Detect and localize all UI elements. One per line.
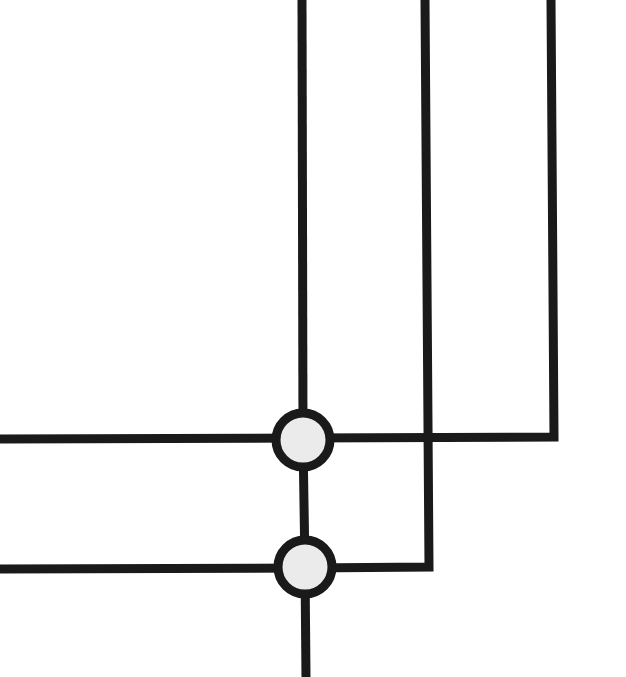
wire-left-1 xyxy=(0,438,303,439)
junction-node-1 xyxy=(276,413,330,467)
wire-top-2 xyxy=(305,0,429,568)
wire-left-2 xyxy=(0,568,305,569)
junction-node-2 xyxy=(278,540,332,594)
diagram-canvas xyxy=(0,0,626,677)
wire-top-1 xyxy=(302,0,303,440)
